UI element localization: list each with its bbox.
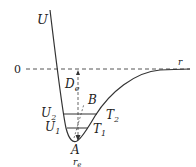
x-axis-label: r bbox=[178, 57, 183, 67]
b-dashed-line bbox=[74, 104, 84, 138]
dissociation-label: De bbox=[64, 77, 80, 93]
zero-label: 0 bbox=[14, 63, 21, 76]
turning-t1-label: T1 bbox=[93, 122, 106, 138]
equilibrium-label: re bbox=[73, 157, 81, 167]
potential-curve bbox=[50, 10, 190, 142]
minimum-a-label: A bbox=[70, 143, 80, 157]
arrow-head-up-icon bbox=[76, 70, 80, 75]
y-axis-label: U bbox=[37, 12, 49, 27]
point-b-label: B bbox=[87, 93, 97, 107]
potential-energy-diagram: U 0 r De B U2 U1 T2 T1 A re bbox=[0, 0, 196, 167]
level-u1-label: U1 bbox=[45, 120, 60, 136]
turning-t2-label: T2 bbox=[106, 108, 119, 124]
